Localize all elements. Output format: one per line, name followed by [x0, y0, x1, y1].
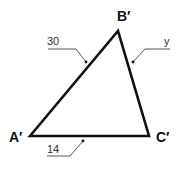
leader-line-bc [133, 49, 170, 62]
vertex-label-b: B′ [117, 8, 131, 24]
side-label-bc: y [164, 35, 170, 47]
side-bc-callout: y [132, 35, 170, 63]
side-label-ac: 14 [47, 143, 59, 155]
side-ab-callout: 30 [47, 35, 87, 63]
leader-dot-bc [132, 61, 135, 64]
leader-dot-ab [85, 61, 88, 64]
leader-dot-ac [82, 140, 85, 143]
triangle-diagram: B′ A′ C′ 30 y 14 [0, 0, 179, 173]
vertex-label-a: A′ [9, 129, 23, 145]
vertex-label-c: C′ [156, 129, 170, 145]
side-ac-callout: 14 [47, 140, 84, 156]
leader-line-ab [48, 49, 86, 62]
side-label-ab: 30 [47, 35, 59, 47]
